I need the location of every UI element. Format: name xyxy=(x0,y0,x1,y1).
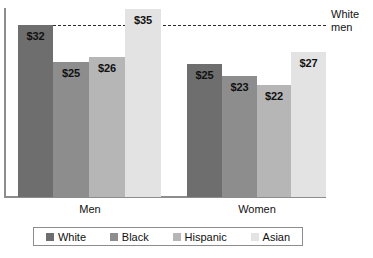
bar-value-label: $23 xyxy=(222,81,257,93)
bar-chart: White men $32$25$26$35$25$23$22$27 MenWo… xyxy=(0,0,373,258)
bar-value-label: $25 xyxy=(53,67,89,79)
bar-women-black: $23 xyxy=(222,76,257,197)
legend-label: Black xyxy=(122,231,149,243)
bar-value-label: $22 xyxy=(257,90,291,102)
group-label-women: Women xyxy=(222,203,292,215)
bar-value-label: $35 xyxy=(125,14,161,26)
legend-swatch-icon xyxy=(110,233,118,241)
y-axis-line xyxy=(4,8,6,197)
bar-women-white: $25 xyxy=(187,64,222,197)
bar-women-hispanic: $22 xyxy=(257,85,291,197)
legend-item-black[interactable]: Black xyxy=(110,231,149,243)
bar-value-label: $25 xyxy=(187,69,222,81)
legend-swatch-icon xyxy=(251,233,259,241)
legend-item-hispanic[interactable]: Hispanic xyxy=(173,231,227,243)
chart-legend: WhiteBlackHispanicAsian xyxy=(33,227,303,246)
white-men-reference-line xyxy=(18,25,326,26)
reference-label-line1: White xyxy=(331,8,359,21)
white-men-reference-label: White men xyxy=(331,8,359,34)
group-label-men: Men xyxy=(55,203,125,215)
bar-value-label: $27 xyxy=(291,57,326,69)
bar-value-label: $32 xyxy=(18,30,53,42)
legend-swatch-icon xyxy=(46,233,54,241)
legend-item-white[interactable]: White xyxy=(46,231,86,243)
legend-label: Asian xyxy=(263,231,291,243)
bar-women-asian: $27 xyxy=(291,52,326,197)
legend-swatch-icon xyxy=(173,233,181,241)
legend-label: White xyxy=(58,231,86,243)
bar-men-asian: $35 xyxy=(125,9,161,197)
bar-men-black: $25 xyxy=(53,62,89,197)
bar-men-white: $32 xyxy=(18,25,53,197)
legend-label: Hispanic xyxy=(185,231,227,243)
bar-value-label: $26 xyxy=(89,62,125,74)
bar-men-hispanic: $26 xyxy=(89,57,125,197)
reference-label-line2: men xyxy=(331,21,359,34)
legend-item-asian[interactable]: Asian xyxy=(251,231,291,243)
